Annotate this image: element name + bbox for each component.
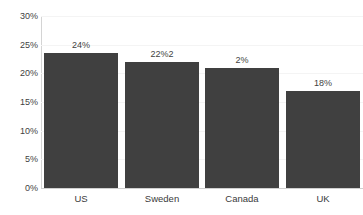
y-axis-tick-label: 0% xyxy=(4,184,38,193)
bar-value-label: 18% xyxy=(286,78,360,88)
chart-title-cropped xyxy=(0,0,363,9)
bar-value-label: 2% xyxy=(205,55,279,65)
bar xyxy=(286,91,360,188)
y-axis-tick-label: 15% xyxy=(4,98,38,107)
x-axis-category-label: US xyxy=(44,193,118,204)
y-axis-tick-label: 20% xyxy=(4,69,38,78)
y-axis-tick-label: 5% xyxy=(4,155,38,164)
x-axis-line xyxy=(41,188,363,189)
gridline xyxy=(41,16,363,17)
bar xyxy=(44,53,118,188)
bar xyxy=(125,62,199,188)
x-axis-category-label: Canada xyxy=(205,193,279,204)
x-axis-category-label: UK xyxy=(286,193,360,204)
y-axis-tick-labels: 30%25%20%15%10%5%0% xyxy=(0,16,38,189)
bar-value-label: 24% xyxy=(44,40,118,50)
bar-value-label: 22%2 xyxy=(125,49,199,59)
y-axis-tick-label: 25% xyxy=(4,41,38,50)
x-axis-category-label: Sweden xyxy=(125,193,199,204)
plot-area: 24%22%22%18% xyxy=(41,16,363,188)
y-axis-tick-label: 10% xyxy=(4,127,38,136)
y-axis-tick-label: 30% xyxy=(4,12,38,21)
bar xyxy=(205,68,279,188)
bar-chart: 30%25%20%15%10%5%0% 24%22%22%18% USSwede… xyxy=(0,0,363,215)
